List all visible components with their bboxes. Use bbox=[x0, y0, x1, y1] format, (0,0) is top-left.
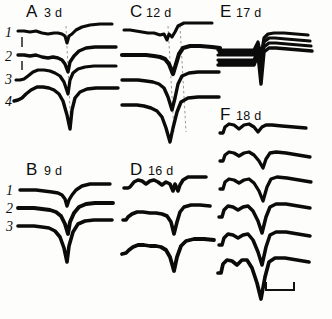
trace-line bbox=[124, 177, 206, 191]
trace-line bbox=[220, 177, 311, 201]
panel-E: E 17 d bbox=[212, 0, 332, 105]
panel-B: B 9 d 1 2 3 bbox=[0, 158, 130, 278]
panel-B-traces bbox=[0, 158, 130, 278]
panel-C-traces bbox=[120, 0, 225, 155]
scale-bar bbox=[264, 281, 298, 293]
panel-A: A 3 d 1 2 3 4 bbox=[0, 0, 130, 155]
electrophysiology-figure: A 3 d 1 2 3 4 B 9 d 1 2 3 bbox=[0, 0, 332, 319]
trace-line bbox=[122, 239, 214, 271]
panel-F: F 18 d bbox=[212, 103, 332, 319]
trace-line bbox=[18, 47, 116, 72]
panel-E-traces bbox=[212, 0, 332, 105]
panel-D-traces bbox=[120, 158, 225, 288]
trace-line bbox=[219, 204, 310, 233]
panel-C: C 12 d bbox=[120, 0, 225, 155]
trace-line bbox=[18, 24, 112, 43]
trace-line bbox=[220, 124, 306, 133]
trace-line bbox=[122, 46, 220, 74]
trace-line bbox=[220, 152, 310, 168]
panel-A-traces bbox=[0, 0, 130, 155]
panel-D: D 16 d bbox=[120, 158, 225, 288]
trace-line bbox=[123, 205, 210, 234]
trace-line bbox=[14, 87, 118, 129]
panel-C-dashed-line bbox=[168, 26, 174, 132]
